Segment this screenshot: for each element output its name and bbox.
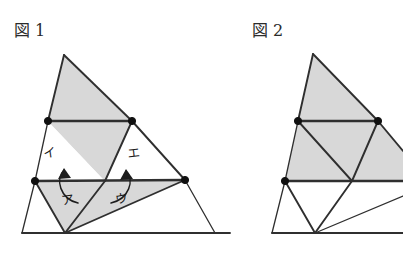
figure-1-caption: 図 1: [14, 21, 45, 40]
fig2-dot-upper-right: [374, 117, 381, 124]
label-e: エ: [127, 145, 141, 161]
label-a: ア: [60, 191, 75, 208]
fig1-dot-mid-right: [181, 176, 188, 183]
geometry-figures-svg: イ ア ウ エ 図 1: [0, 0, 403, 258]
fig1-edge-mid-horizontal: [35, 180, 185, 181]
fig2-edge-mid-left-to-base-left: [272, 181, 285, 233]
figure-1-group: イ ア ウ エ 図 1: [14, 21, 230, 233]
diagram-canvas: イ ア ウ エ 図 1: [0, 0, 403, 258]
fig1-shaded-top-triangle: [48, 55, 132, 121]
fig2-dot-upper-left: [294, 117, 301, 124]
figure-2-caption: 図 2: [252, 21, 283, 40]
fig1-dot-upper-left: [44, 117, 51, 124]
label-u: ウ: [114, 190, 129, 207]
fig1-dot-mid-left: [31, 177, 38, 184]
label-i: イ: [42, 144, 57, 161]
figure-2-shaded-regions: [285, 54, 403, 181]
fig2-edge-mid-left-to-bottom: [285, 181, 315, 233]
fig1-edge-mid-right-to-base-right: [185, 180, 215, 233]
figure-2-group: 図 2: [252, 21, 403, 233]
fig2-dot-mid-left: [281, 177, 288, 184]
fig1-dot-upper-right: [128, 117, 135, 124]
